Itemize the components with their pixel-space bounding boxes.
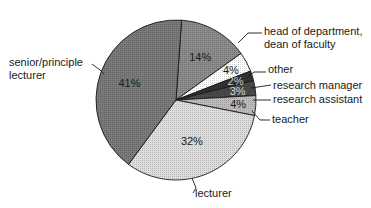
slice-label: research assistant — [273, 93, 362, 105]
slice-label: research manager — [273, 79, 363, 91]
slice-label: lecturer — [9, 69, 46, 81]
percentage-label: 3% — [230, 85, 246, 97]
percentage-label: 32% — [181, 135, 203, 147]
slice-label: dean of faculty — [264, 38, 336, 50]
percentage-label: 41% — [118, 77, 140, 89]
slice-label: lecturer — [195, 187, 232, 199]
slice-label: other — [268, 63, 293, 75]
slice-label: head of department, — [264, 25, 362, 37]
slice-label: teacher — [272, 113, 309, 125]
percentage-label: 14% — [189, 51, 211, 63]
slice-label: senior/principle — [9, 56, 83, 68]
pie-chart: 14%4%2%3%4%32%41% head of department,dea… — [0, 0, 371, 208]
leader-line — [238, 33, 262, 43]
percentage-label: 4% — [230, 98, 246, 110]
